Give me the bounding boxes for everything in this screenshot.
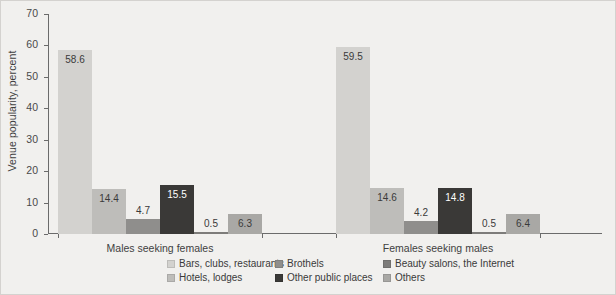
legend-item: Hotels, lodges [167, 272, 271, 284]
y-axis-tick-label: 20 [26, 164, 38, 177]
bar: 59.5 [336, 47, 370, 234]
y-axis-tick: 40 [44, 108, 48, 109]
legend-swatch-icon [167, 260, 175, 268]
bar-value-label: 4.7 [126, 205, 160, 217]
legend-item: Others [383, 272, 514, 284]
legend-item: Brothels [275, 258, 379, 270]
y-axis-tick: 20 [44, 171, 48, 172]
y-axis-tick: 70 [44, 14, 48, 15]
y-axis-tick-label: 10 [26, 196, 38, 209]
bar: 14.8 [438, 188, 472, 235]
x-axis-group-label: Males seeking females [58, 242, 262, 255]
y-axis-title-text: Venue popularity, percent [6, 51, 18, 172]
legend-label: Beauty salons, the Internet [395, 258, 514, 270]
bar: 0.5 [194, 232, 228, 234]
x-axis-tick [262, 234, 263, 238]
bar-value-label: 4.2 [404, 207, 438, 219]
legend-item: Beauty salons, the Internet [383, 258, 514, 270]
legend-item: Other public places [275, 272, 379, 284]
y-axis-tick: 50 [44, 77, 48, 78]
bar-value-label: 15.5 [160, 189, 194, 201]
legend-item: Bars, clubs, restaurants [167, 258, 271, 270]
bar-value-label: 59.5 [336, 51, 370, 63]
bar: 4.7 [126, 219, 160, 234]
y-axis-tick: 0 [44, 234, 48, 235]
x-axis-tick [540, 234, 541, 238]
bar-value-label: 0.5 [194, 218, 228, 230]
legend-swatch-icon [167, 274, 175, 282]
bar: 14.6 [370, 188, 404, 234]
y-axis-tick: 30 [44, 140, 48, 141]
x-axis-group-label: Females seeking males [336, 242, 540, 255]
legend-swatch-icon [275, 274, 283, 282]
bar: 14.4 [92, 189, 126, 234]
y-axis-line [48, 14, 49, 234]
bar-value-label: 14.8 [438, 192, 472, 204]
y-axis-tick-label: 30 [26, 133, 38, 146]
bar-value-label: 14.6 [370, 192, 404, 204]
y-axis-tick-label: 40 [26, 101, 38, 114]
bar: 6.3 [228, 214, 262, 234]
bar-value-label: 14.4 [92, 193, 126, 205]
legend-label: Hotels, lodges [179, 272, 242, 284]
legend-swatch-icon [383, 274, 391, 282]
legend-swatch-icon [383, 260, 391, 268]
bar: 6.4 [506, 214, 540, 234]
bar-value-label: 6.3 [228, 218, 262, 230]
bar: 15.5 [160, 185, 194, 234]
y-axis-tick-label: 60 [26, 38, 38, 51]
y-axis-tick-label: 70 [26, 7, 38, 20]
y-axis-tick: 60 [44, 45, 48, 46]
legend-label: Bars, clubs, restaurants [179, 258, 284, 270]
plot-area: 010203040506070 58.614.44.715.50.56.359.… [48, 14, 602, 234]
y-axis-tick-label: 50 [26, 70, 38, 83]
y-axis-tick: 10 [44, 203, 48, 204]
x-axis-tick [336, 234, 337, 238]
x-axis-tick [58, 234, 59, 238]
bar: 58.6 [58, 50, 92, 234]
bar: 0.5 [472, 232, 506, 234]
bar-value-label: 58.6 [58, 54, 92, 66]
y-axis-tick-label: 0 [32, 227, 38, 240]
legend-label: Others [395, 272, 425, 284]
legend-label: Other public places [287, 272, 373, 284]
y-axis-title: Venue popularity, percent [5, 1, 19, 221]
chart-legend: Bars, clubs, restaurantsBrothelsBeauty s… [167, 257, 514, 284]
bar: 4.2 [404, 221, 438, 234]
bar-value-label: 6.4 [506, 218, 540, 230]
chart-figure: Venue popularity, percent 01020304050607… [0, 0, 616, 295]
legend-label: Brothels [287, 258, 324, 270]
legend-swatch-icon [275, 260, 283, 268]
bar-value-label: 0.5 [472, 218, 506, 230]
